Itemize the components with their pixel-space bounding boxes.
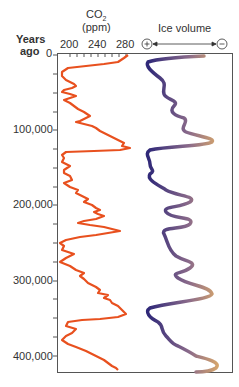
chart-canvas	[0, 0, 239, 387]
co2-curve	[60, 55, 130, 370]
y-axis-ticks	[53, 55, 57, 356]
ice-volume-curve	[147, 56, 217, 372]
ice-volume-arrow	[142, 39, 227, 49]
plot-frame	[58, 54, 233, 373]
